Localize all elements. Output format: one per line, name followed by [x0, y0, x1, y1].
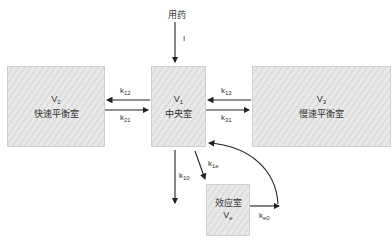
compartment-effect-name: 效应室	[215, 197, 242, 209]
label-ke0: ke0	[259, 211, 270, 221]
compartment-slow: V3 慢速平衡室	[252, 66, 391, 147]
volume-v1: V1	[174, 93, 183, 108]
compartment-slow-name: 慢速平衡室	[299, 108, 344, 120]
dose-input-symbol: I	[183, 34, 185, 43]
label-k13: k13	[221, 86, 232, 96]
compartment-central: V1 中央室	[151, 66, 206, 147]
compartment-fast-name: 快速平衡室	[34, 108, 79, 120]
compartment-central-name: 中央室	[165, 108, 192, 120]
label-k31: k31	[221, 113, 232, 123]
compartment-fast: V2 快速平衡室	[7, 66, 105, 147]
label-k21: k21	[120, 113, 131, 123]
volume-v3: V3	[317, 93, 326, 108]
dose-label: 用药	[168, 8, 186, 21]
label-k1e: k1e	[208, 159, 219, 169]
volume-ve: Ve	[223, 209, 232, 224]
compartment-effect: 效应室 Ve	[206, 184, 250, 236]
label-k10: k10	[179, 171, 190, 181]
label-k12: k12	[120, 86, 131, 96]
volume-v2: V2	[51, 93, 60, 108]
k1e-arrow	[195, 151, 205, 179]
